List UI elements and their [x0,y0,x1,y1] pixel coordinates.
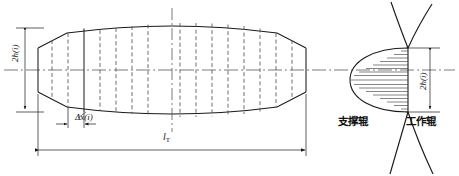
label-total-length-subscript: T [166,136,170,144]
figure-canvas: 2h(i) 2h(i) Δx(i) lT 支撑辊 工作辊 [0,0,459,176]
label-strip-thickness-left: 2h(i) [10,45,20,63]
label-element-width: Δx(i) [75,112,93,122]
pressure-hatching [351,51,408,109]
label-work-roll: 工作辊 [406,113,436,128]
label-total-length: lT [163,131,170,144]
work-roll-curve-upper [391,2,408,48]
diagram-svg [0,0,459,176]
backup-roll-curve-upper [408,4,432,48]
label-strip-thickness-right: 2h(i) [418,73,428,91]
label-backup-roll: 支撑辊 [338,113,368,128]
